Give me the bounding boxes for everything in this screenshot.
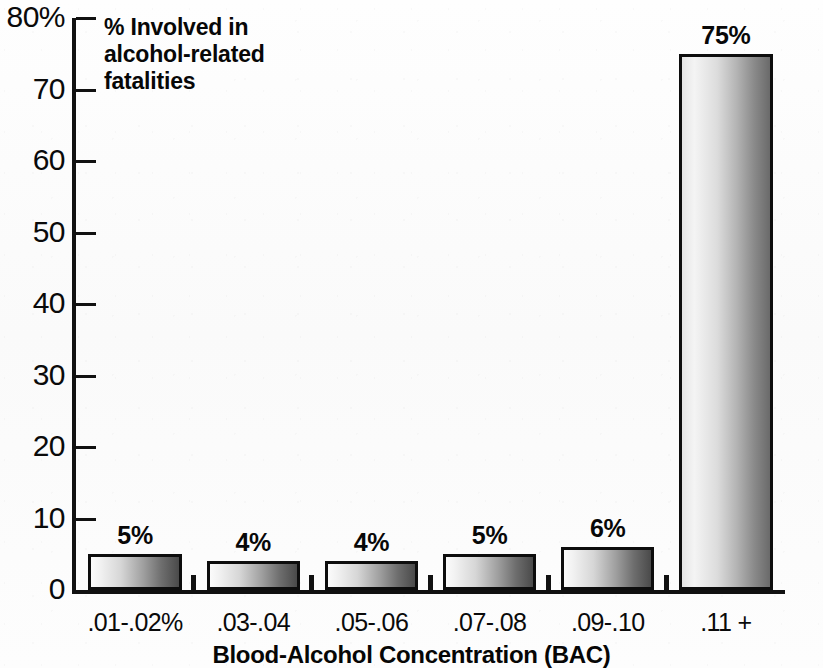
y-tick-mark-70	[76, 89, 96, 92]
y-tick-mark-10	[76, 518, 96, 521]
bar-0	[88, 554, 181, 590]
bar-value-1: 4%	[207, 530, 300, 555]
y-tick-mark-50	[76, 232, 96, 235]
bar-chart-plot-area: 80% 70 60 50 40 30 20 10 0 % Involved in…	[0, 0, 823, 668]
bar-2	[325, 561, 418, 590]
y-tick-label-30: 30	[33, 360, 65, 390]
bar-value-4: 6%	[561, 516, 654, 541]
x-tick-label-5: .11 +	[667, 610, 785, 635]
minor-tick-5	[664, 575, 669, 591]
bar-1	[207, 561, 300, 590]
y-tick-label-80: 80%	[6, 2, 65, 32]
y-tick-label-10: 10	[33, 503, 65, 533]
minor-tick-1	[191, 575, 196, 591]
y-tick-mark-20	[76, 446, 96, 449]
y-tick-label-40: 40	[33, 288, 65, 318]
bar-value-3: 5%	[443, 523, 536, 548]
y-tick-label-70: 70	[33, 74, 65, 104]
y-tick-mark-40	[76, 303, 96, 306]
minor-tick-4	[546, 575, 551, 591]
bar-5	[679, 54, 772, 590]
x-axis-title: Blood-Alcohol Concentration (BAC)	[0, 643, 823, 667]
bar-value-2: 4%	[325, 530, 418, 555]
x-tick-label-0: .01-.02%	[76, 610, 194, 635]
x-tick-label-2: .05-.06	[312, 610, 430, 635]
y-tick-label-0: 0	[49, 574, 65, 604]
minor-tick-2	[309, 575, 314, 591]
chart-annotation: % Involved in alcohol-related fatalities	[104, 14, 265, 95]
bar-4	[561, 547, 654, 590]
bar-3	[443, 554, 536, 590]
y-tick-label-60: 60	[33, 145, 65, 175]
x-tick-label-1: .03-.04	[194, 610, 312, 635]
y-tick-mark-30	[76, 375, 96, 378]
bar-value-0: 5%	[88, 523, 181, 548]
x-tick-label-4: .09-.10	[549, 610, 667, 635]
y-tick-label-20: 20	[33, 431, 65, 461]
y-tick-mark-60	[76, 160, 96, 163]
chart-page: 80% 70 60 50 40 30 20 10 0 % Involved in…	[0, 0, 823, 668]
bar-value-5: 75%	[679, 23, 772, 48]
minor-tick-3	[428, 575, 433, 591]
y-axis-line	[72, 18, 76, 594]
x-tick-label-3: .07-.08	[431, 610, 549, 635]
y-tick-label-50: 50	[33, 217, 65, 247]
y-tick-mark-80	[76, 17, 96, 20]
